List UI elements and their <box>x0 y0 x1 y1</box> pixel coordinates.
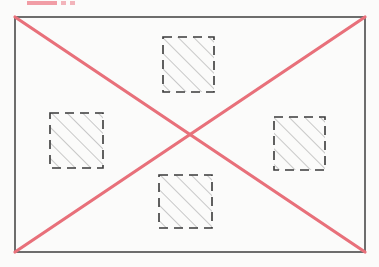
diagram-canvas <box>0 0 379 267</box>
hatched-square-top-fill <box>163 37 214 92</box>
hatched-square-right-fill <box>274 117 325 170</box>
schematic-figure <box>0 0 379 267</box>
hatched-square-right <box>274 117 325 170</box>
hatched-square-bottom <box>159 175 212 228</box>
hatched-square-top <box>163 37 214 92</box>
hatched-square-left-fill <box>50 113 103 168</box>
hatched-square-left <box>50 113 103 168</box>
hatched-square-bottom-fill <box>159 175 212 228</box>
